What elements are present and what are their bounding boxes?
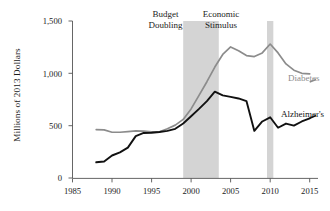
y-tick-label-500: 500 [28, 121, 62, 131]
x-axis-ticks [73, 178, 310, 182]
y-tick-label-1000: 1,000 [28, 69, 62, 79]
x-tick-label-2000: 2000 [174, 186, 208, 196]
annotation-budget-doubling-line1: Budget [141, 9, 190, 20]
chart-figure: Millions of 2013 Dollars 1,500 1,000 500… [0, 0, 330, 211]
series-label-alzheimers: Alzheimer's [281, 109, 324, 119]
y-axis-ticks [69, 21, 73, 178]
y-tick-label-0: 0 [28, 173, 62, 183]
annotation-budget-doubling: Budget Doubling [141, 9, 190, 30]
annotation-budget-doubling-line2: Doubling [141, 20, 190, 31]
x-tick-label-1985: 1985 [56, 186, 90, 196]
x-tick-label-2015: 2015 [293, 186, 327, 196]
series-label-diabetes: Diabetes [288, 73, 320, 83]
annotation-economic-stimulus-line1: Economic [193, 9, 249, 20]
x-tick-label-1995: 1995 [135, 186, 169, 196]
x-tick-label-2005: 2005 [214, 186, 248, 196]
x-tick-label-2010: 2010 [253, 186, 287, 196]
annotation-economic-stimulus-line2: Stimulus [193, 20, 249, 31]
x-tick-label-1990: 1990 [95, 186, 129, 196]
y-tick-label-1500: 1,500 [28, 16, 62, 26]
annotation-economic-stimulus: Economic Stimulus [193, 9, 249, 30]
band-budget-doubling [183, 21, 219, 178]
